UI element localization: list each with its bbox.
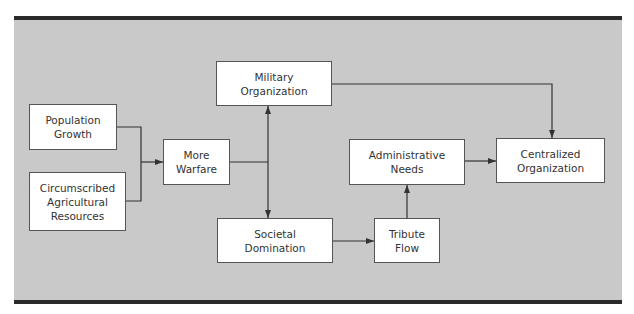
node-centralized-organization: Centralized Organization xyxy=(496,138,605,183)
node-administrative-needs: Administrative Needs xyxy=(349,139,465,185)
node-circumscribed-agricultural-resources: Circumscribed Agricultural Resources xyxy=(29,172,126,231)
edge-population-to-warfare xyxy=(117,127,141,162)
edge-circumscribed-to-warfare xyxy=(126,162,141,201)
edge-military-to-centralized xyxy=(332,84,552,138)
node-tribute-flow: Tribute Flow xyxy=(374,218,440,263)
node-military-organization: Military Organization xyxy=(216,61,332,106)
node-societal-domination: Societal Domination xyxy=(217,218,333,263)
node-population-growth: Population Growth xyxy=(29,104,117,150)
node-more-warfare: More Warfare xyxy=(163,139,230,185)
